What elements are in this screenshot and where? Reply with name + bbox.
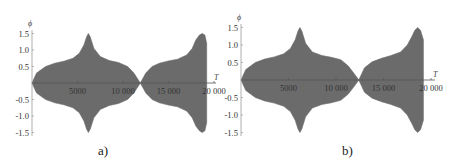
y-axis-label: ϕ [28,19,32,28]
y-tick-label: -1.0 [16,111,29,121]
y-tick-label: 0.5 [227,58,238,68]
y-tick-label: 0.5 [18,62,29,72]
x-tick-label: 10 000 [324,83,347,93]
x-tick-label: 15 000 [157,86,180,96]
y-tick-label: -1.5 [225,128,238,138]
y-tick-label: 1.5 [227,23,238,33]
chart-panel-a: -1.5-1.0-0.50.51.01.5500010 00015 00020 … [0,0,225,168]
chart-plot-a: -1.5-1.0-0.50.51.01.5500010 00015 00020 … [0,0,225,168]
chart-panel-b: -1.5-1.0-0.50.51.01.5500010 00015 00020 … [225,0,450,168]
x-axis-label: T [433,70,438,79]
y-tick-label: 1.0 [227,40,238,50]
y-tick-label: 1.0 [18,45,29,55]
x-tick-label: 20 000 [419,83,442,93]
panel-caption-b: b) [342,143,353,159]
x-axis-label: T [214,73,219,82]
x-tick-label: 10 000 [111,86,134,96]
x-tick-label: 15 000 [372,83,395,93]
y-tick-label: 1.5 [18,29,29,39]
y-tick-label: -0.5 [16,95,29,105]
panel-caption-a: a) [98,143,108,159]
y-tick-label: -0.5 [225,93,238,103]
x-tick-label: 5000 [69,86,86,96]
x-tick-label: 5000 [280,83,297,93]
y-tick-label: -1.5 [16,128,29,138]
x-tick-label: 20 000 [202,86,225,96]
y-tick-label: -1.0 [225,110,238,120]
y-axis-label: ϕ [237,13,241,22]
chart-plot-b: -1.5-1.0-0.50.51.01.5500010 00015 00020 … [225,0,450,168]
